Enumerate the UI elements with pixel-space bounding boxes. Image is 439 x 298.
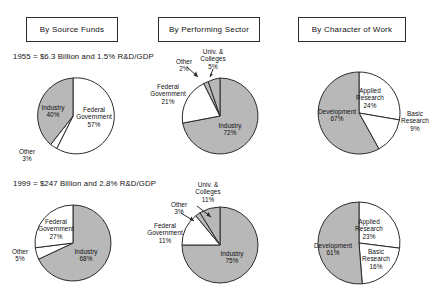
pie1-label-federal-government: Federal Government 57%	[72, 106, 116, 128]
pie4-federal-name: Federal	[33, 218, 79, 225]
pie3-basic-pct: 9%	[396, 125, 434, 132]
pie5-federal-name2: Government	[142, 229, 188, 236]
row-caption-1999: 1999 = $247 Billion and 2.8% R&D/GDP	[13, 179, 156, 188]
header-box-character-of-work: By Character of Work	[298, 17, 406, 42]
pie2-label-federal-government: Federal Government 21%	[146, 83, 190, 105]
pie5-other-name: Other	[167, 201, 191, 208]
pie5-univ-name2: Colleges	[190, 188, 226, 195]
pie1-other-name: Other	[14, 148, 40, 155]
pie6-label-development: Development 61%	[306, 242, 360, 257]
pie1-federal-name2: Government	[72, 113, 116, 120]
pie2-leader-other	[186, 66, 206, 82]
pie1-federal-name: Federal	[72, 106, 116, 113]
header-box-performing-sector: By Performing Sector	[158, 17, 260, 42]
pie2-industry-name: Industry	[212, 122, 248, 129]
pie4-other-name: Other	[8, 248, 32, 255]
pie1-other-pct: 3%	[14, 155, 40, 162]
pie6-applied-name2: Research	[348, 225, 390, 232]
pie1-label-industry: Industry 40%	[36, 104, 70, 119]
pie-chart-source-funds-1999	[33, 203, 113, 283]
pie1-industry-pct: 40%	[36, 111, 70, 118]
pie2-univ-name: Univ. &	[196, 48, 230, 55]
pie2-industry-pct: 72%	[212, 129, 248, 136]
pie3-label-basic-research: Basic Research 9%	[396, 110, 434, 132]
pie4-industry-pct: 68%	[68, 255, 104, 262]
pie2-other-name: Other	[172, 58, 196, 65]
pie3-basic-name: Basic	[396, 110, 434, 117]
pie5-industry-name: Industry	[214, 250, 250, 257]
pie5-univ-name: Univ. &	[190, 181, 226, 188]
pie2-federal-name: Federal	[146, 83, 190, 90]
header-box-source-funds: By Source Funds	[26, 17, 118, 42]
pie6-basic-pct: 16%	[356, 263, 396, 270]
pie3-basic-name2: Research	[396, 117, 434, 124]
pie4-label-federal-government: Federal Government 27%	[33, 218, 79, 240]
pie3-label-development: Development 67%	[310, 108, 364, 123]
header-label-performing-sector: By Performing Sector	[169, 25, 249, 34]
pie3-applied-name2: Research	[350, 94, 390, 101]
pie3-label-applied-research: Applied Research 24%	[350, 87, 390, 109]
pie4-federal-name2: Government	[33, 225, 79, 232]
pie5-label-industry: Industry 75%	[214, 250, 250, 265]
pie4-label-other: Other 5%	[8, 248, 32, 263]
pie1-label-other: Other 3%	[14, 148, 40, 163]
pie4-industry-name: Industry	[68, 248, 104, 255]
pie-svg-2	[180, 76, 260, 156]
pie2-federal-name2: Government	[146, 90, 190, 97]
pie3-dev-name: Development	[310, 108, 364, 115]
header-label-source-funds: By Source Funds	[40, 25, 104, 34]
pie4-federal-pct: 27%	[33, 233, 79, 240]
pie6-label-applied-research: Applied Research 23%	[348, 218, 390, 240]
pie6-basic-name: Basic	[356, 248, 396, 255]
pie5-industry-pct: 75%	[214, 257, 250, 264]
pie6-dev-name: Development	[306, 242, 360, 249]
pie1-industry-name: Industry	[36, 104, 70, 111]
pie4-other-pct: 5%	[8, 255, 32, 262]
pie2-univ-name2: Colleges	[196, 55, 230, 62]
pie-chart-performing-sector-1955	[180, 76, 260, 156]
row-caption-1955: 1955 = $6.3 Billion and 1.5% R&D/GDP	[13, 52, 154, 61]
pie6-basic-name2: Research	[356, 255, 396, 262]
pie2-federal-pct: 21%	[146, 98, 190, 105]
pie6-label-basic-research: Basic Research 16%	[356, 248, 396, 270]
pie2-label-industry: Industry 72%	[212, 122, 248, 137]
pie6-dev-pct: 61%	[306, 249, 360, 256]
pie2-leader-univ-colleges	[208, 68, 222, 82]
pie5-leader-univ-colleges	[196, 205, 218, 223]
pie3-dev-pct: 67%	[310, 115, 364, 122]
pie6-applied-name: Applied	[348, 218, 390, 225]
pie4-label-industry: Industry 68%	[68, 248, 104, 263]
pie5-univ-pct: 11%	[190, 196, 226, 203]
pie5-federal-pct: 11%	[142, 237, 188, 244]
header-label-character-of-work: By Character of Work	[312, 25, 392, 34]
pie1-federal-pct: 57%	[72, 121, 116, 128]
pie6-applied-pct: 23%	[348, 233, 390, 240]
pie3-applied-name: Applied	[350, 87, 390, 94]
pie5-label-univ-colleges: Univ. & Colleges 11%	[190, 181, 226, 203]
pie-svg-4	[33, 203, 113, 283]
